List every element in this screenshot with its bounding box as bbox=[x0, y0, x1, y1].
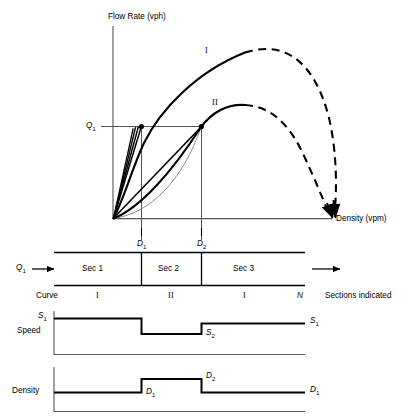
d2-axis-label: D2 bbox=[197, 240, 206, 250]
curve-row-label: Curve bbox=[36, 292, 58, 300]
q1-subscript: 1 bbox=[92, 126, 95, 132]
section-cell-3: Sec 3 bbox=[233, 265, 254, 273]
density-axis-label: Density bbox=[12, 387, 39, 395]
d1-axis-label: D1 bbox=[137, 240, 146, 250]
density-tick-marks bbox=[142, 228, 202, 236]
operating-point-d2 bbox=[199, 124, 204, 129]
curve-row-value-2: II bbox=[168, 292, 174, 300]
chord-bundle-origin bbox=[114, 127, 202, 219]
figure-vector-layer bbox=[0, 0, 417, 417]
curve-ii bbox=[114, 105, 333, 219]
curve-label-i: I bbox=[205, 47, 208, 55]
x-axis-title: Density (vpm) bbox=[336, 215, 387, 223]
density-low-level-label: D1 bbox=[146, 388, 155, 398]
density-right-level-label: D1 bbox=[310, 386, 319, 396]
section-cell-1: Sec 1 bbox=[82, 265, 103, 273]
speed-trace bbox=[54, 319, 305, 335]
inflow-subscript: 1 bbox=[22, 268, 25, 274]
operating-point-d1 bbox=[139, 124, 144, 129]
speed-dip-subscript: 2 bbox=[211, 333, 214, 339]
curve-i bbox=[114, 49, 336, 218]
speed-right-subscript: 1 bbox=[315, 321, 318, 327]
density-low-subscript: 1 bbox=[152, 392, 155, 398]
speed-dip-level-label: S2 bbox=[206, 329, 215, 339]
figure-root: Flow Rate (vph) Density (vpm) I II Q1 D1… bbox=[0, 0, 417, 417]
section-n-label: N bbox=[297, 292, 303, 300]
sections-caption: Sections indicated bbox=[325, 292, 391, 300]
density-right-subscript: 1 bbox=[316, 390, 319, 396]
speed-left-subscript: 1 bbox=[43, 316, 46, 322]
curve-row-value-3: I bbox=[243, 292, 246, 300]
d1-subscript: 1 bbox=[143, 244, 146, 250]
y-axis-title: Flow Rate (vph) bbox=[108, 13, 166, 21]
density-high-level-label: D2 bbox=[206, 372, 215, 382]
d2-subscript: 2 bbox=[203, 244, 206, 250]
speed-right-level-label: S1 bbox=[310, 317, 319, 327]
section-inflow-label: Q1 bbox=[16, 264, 26, 274]
speed-axis-label: Speed bbox=[17, 327, 41, 335]
density-high-subscript: 2 bbox=[212, 376, 215, 382]
section-cell-2: Sec 2 bbox=[158, 265, 179, 273]
q1-axis-label: Q1 bbox=[86, 122, 96, 132]
curve-label-ii: II bbox=[212, 99, 218, 107]
chart-axes bbox=[113, 26, 332, 219]
density-trace bbox=[54, 379, 305, 393]
speed-left-level-label: S1 bbox=[38, 312, 47, 322]
density-panel-axes bbox=[54, 367, 305, 412]
curve-row-value-1: I bbox=[96, 292, 99, 300]
